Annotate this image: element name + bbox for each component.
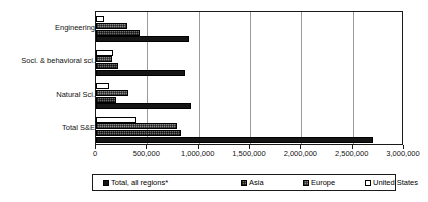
category-label: Natural Sci.	[56, 90, 95, 99]
category-label: Total S&E	[62, 123, 95, 132]
legend-item-united_states[interactable]: United States	[365, 178, 418, 188]
legend-swatch-icon	[303, 180, 309, 186]
x-axis-tick-label: 0	[93, 149, 97, 159]
bar-asia	[96, 30, 140, 36]
gridline	[353, 12, 354, 144]
legend-swatch-icon	[103, 180, 109, 186]
category-label: Engineering	[55, 23, 95, 32]
bar-asia	[96, 130, 181, 136]
bar-united_states	[96, 117, 136, 123]
legend-swatch-icon	[365, 180, 371, 186]
legend-item-total[interactable]: Total, all regions*	[103, 178, 168, 188]
legend-label: Europe	[311, 178, 335, 188]
bar-total	[96, 137, 373, 143]
legend-swatch-icon	[241, 180, 247, 186]
bar-europe	[96, 23, 127, 29]
bar-united_states	[96, 50, 113, 56]
legend-items: Total, all regions*AsiaEuropeUnited Stat…	[93, 175, 395, 190]
x-axis-labels: 0500,0001,000,0001,500,0002,000,0002,500…	[0, 149, 428, 161]
legend-item-asia[interactable]: Asia	[241, 178, 264, 188]
bar-europe	[96, 90, 128, 96]
bar-asia	[96, 97, 116, 103]
bar-total	[96, 36, 189, 42]
bar-united_states	[96, 16, 104, 22]
legend-label: Total, all regions*	[111, 178, 168, 188]
gridline	[301, 12, 302, 144]
gridline	[250, 12, 251, 144]
x-axis-tick-label: 2,000,000	[284, 149, 317, 159]
legend-item-europe[interactable]: Europe	[303, 178, 335, 188]
bar-asia	[96, 63, 118, 69]
bar-total	[96, 70, 185, 76]
category-label: Soci. & behavioral sci.	[21, 56, 95, 65]
x-axis-tick-label: 3,000,000	[386, 149, 419, 159]
bar-total	[96, 103, 191, 109]
gridline	[199, 12, 200, 144]
legend: Total, all regions*AsiaEuropeUnited Stat…	[92, 174, 396, 191]
x-axis-tick-label: 2,500,000	[335, 149, 368, 159]
plot-area	[95, 11, 403, 145]
legend-label: United States	[373, 178, 418, 188]
x-axis-tick-label: 1,000,000	[181, 149, 214, 159]
bar-united_states	[96, 83, 109, 89]
bar-europe	[96, 56, 112, 62]
legend-label: Asia	[249, 178, 264, 188]
bar-europe	[96, 123, 177, 129]
bar-chart: EngineeringSoci. & behavioral sci.Natura…	[0, 0, 428, 202]
x-axis-tick-label: 500,000	[133, 149, 160, 159]
x-axis-tick-label: 1,500,000	[232, 149, 265, 159]
